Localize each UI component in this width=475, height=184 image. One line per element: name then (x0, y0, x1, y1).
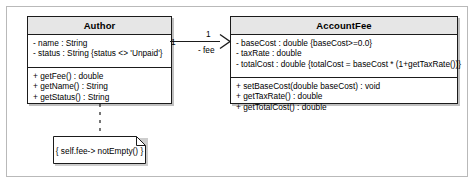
attribute-row: - taxRate : double (236, 48, 453, 58)
attributes-compartment-accountfee: - baseCost : double {baseCost>=0.0} - ta… (231, 35, 457, 78)
operation-row: + getTaxRate() : double (236, 91, 453, 101)
attribute-row: - totalCost : double {totalCost = baseCo… (236, 59, 453, 69)
attribute-row: - name : String (33, 38, 167, 48)
operation-row: + setBaseCost(double baseCost) : void (236, 81, 453, 91)
association-target-multiplicity: 1 (206, 30, 211, 39)
attribute-row: - status : String {status <> 'Unpaid'} (33, 48, 167, 58)
note-constraint-text: { self.fee-> notEmpty() } (53, 136, 146, 164)
attribute-row: - baseCost : double {baseCost>=0.0} (236, 38, 453, 48)
class-name-author: Author (28, 17, 171, 35)
diagram-canvas: Author - name : String - status : String… (0, 0, 475, 184)
class-name-accountfee: AccountFee (231, 17, 457, 35)
note-constraint[interactable]: { self.fee-> notEmpty() } (53, 136, 146, 164)
operations-compartment-accountfee: + setBaseCost(double baseCost) : void + … (231, 78, 457, 120)
operation-row: + getStatus() : String (33, 92, 167, 102)
attributes-compartment-author: - name : String - status : String {statu… (28, 35, 171, 68)
association-target-role: - fee (198, 46, 215, 55)
association-author-accountfee[interactable]: 1 1 - fee (170, 28, 234, 64)
note-connector-dashed-line (98, 104, 102, 137)
operation-row: + getTotalCost() : double (236, 102, 453, 112)
association-source-multiplicity: 1 (171, 38, 176, 47)
operation-row: + getName() : String (33, 81, 167, 91)
operation-row: + getFee() : double (33, 71, 167, 81)
uml-class-accountfee[interactable]: AccountFee - baseCost : double {baseCost… (230, 16, 458, 104)
uml-class-author[interactable]: Author - name : String - status : String… (27, 16, 172, 104)
